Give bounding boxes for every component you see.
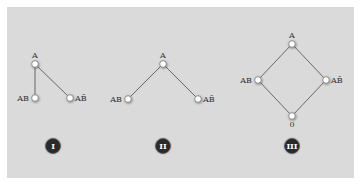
node-label: 0 bbox=[289, 120, 294, 129]
lattice-node bbox=[289, 113, 296, 120]
lattice-node bbox=[32, 95, 39, 102]
node-label: A bbox=[159, 51, 166, 60]
edge-line bbox=[292, 80, 326, 116]
lattice-node bbox=[160, 61, 167, 68]
node-label: AB bbox=[109, 95, 122, 104]
node-label: AB bbox=[16, 94, 29, 103]
node-label: AB̄ bbox=[330, 76, 343, 85]
lattice-node bbox=[195, 96, 202, 103]
badge-roman-numeral: II bbox=[159, 141, 167, 151]
lattice-node bbox=[323, 77, 330, 84]
badges-layer: IIIIII bbox=[44, 137, 301, 155]
edges-layer bbox=[35, 44, 326, 116]
edge-line bbox=[163, 64, 198, 99]
lattice-node bbox=[289, 41, 296, 48]
lattice-node bbox=[125, 96, 132, 103]
node-label: A bbox=[288, 31, 295, 40]
node-label: AB bbox=[239, 76, 252, 85]
edge-line bbox=[258, 80, 292, 116]
edge-line bbox=[128, 64, 163, 99]
lattice-node bbox=[67, 95, 74, 102]
lattice-diagrams: AABAB̄AABAB̄AABAB̄0 IIIIII bbox=[0, 0, 360, 186]
node-label: AB̄ bbox=[202, 95, 215, 104]
edge-line bbox=[258, 44, 292, 80]
node-label: AB̄ bbox=[74, 94, 87, 103]
lattice-node bbox=[255, 77, 262, 84]
edge-line bbox=[35, 64, 70, 98]
lattice-node bbox=[32, 61, 39, 68]
badge-roman-numeral: I bbox=[51, 141, 55, 151]
badge-roman-numeral: III bbox=[286, 141, 297, 151]
node-label: A bbox=[31, 51, 38, 60]
edge-line bbox=[292, 44, 326, 80]
